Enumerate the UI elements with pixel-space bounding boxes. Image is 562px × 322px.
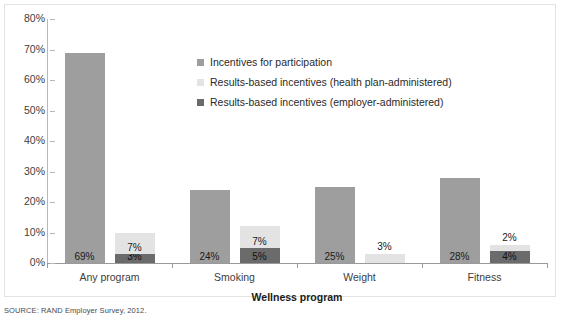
bar-value-label: 5% [240, 251, 280, 262]
bar-value-label: 2% [490, 232, 530, 243]
bar-value-label: 7% [115, 242, 155, 253]
bar-value-label: 4% [490, 251, 530, 262]
bar-results-based-health-plan: 3% [365, 254, 405, 263]
y-axis-tick-label: 50% [24, 104, 45, 116]
legend-item: Results-based incentives (health plan-ad… [197, 73, 547, 91]
legend-swatch-icon [197, 79, 204, 86]
y-axis-tick-label: 60% [24, 73, 45, 85]
x-axis-category-label: Fitness [422, 271, 547, 283]
chart-frame: 80%70%60%50%40%30%20%10%0% 69%3%7%24%5%7… [4, 4, 556, 297]
legend-swatch-icon [197, 59, 204, 66]
x-axis-tick-mark [47, 263, 48, 268]
x-axis-tick-mark [297, 263, 298, 268]
bar-value-label: 28% [440, 251, 480, 262]
y-axis-tick-label: 80% [24, 12, 45, 24]
bar-incentives-participation: 24% [190, 190, 230, 263]
source-note: SOURCE: RAND Employer Survey, 2012. [4, 306, 147, 315]
bar-value-label: 3% [365, 241, 405, 252]
bar-results-based-health-plan: 7% [115, 233, 155, 254]
legend-item-label: Results-based incentives (health plan-ad… [210, 76, 452, 88]
x-axis-tick-mark [172, 263, 173, 268]
bar-incentives-participation: 25% [315, 187, 355, 263]
legend-item: Incentives for participation [197, 53, 547, 71]
bar-results-based-employer: 5% [240, 248, 280, 263]
bar-value-label: 7% [240, 236, 280, 247]
legend-swatch-icon [197, 99, 204, 106]
y-axis-tick-mark [50, 141, 55, 142]
y-axis-tick-label: 0% [30, 256, 45, 268]
y-axis-tick-mark [50, 19, 55, 20]
bar-value-label: 25% [315, 251, 355, 262]
y-axis-tick-mark [50, 233, 55, 234]
legend-item-label: Results-based incentives (employer-admin… [210, 96, 443, 108]
bar-results-based-health-plan: 7% [240, 226, 280, 247]
y-axis-line [47, 19, 48, 263]
x-axis-tick-mark [422, 263, 423, 268]
bar-value-label: 69% [65, 251, 105, 262]
y-axis-tick-mark [50, 263, 55, 264]
x-axis-category-label: Weight [297, 271, 422, 283]
legend-item-label: Incentives for participation [210, 56, 332, 68]
chart-legend: Incentives for participationResults-base… [197, 53, 547, 113]
bar-results-based-health-plan: 2% [490, 245, 530, 251]
y-axis-tick-label: 40% [24, 134, 45, 146]
x-axis-category-label: Smoking [172, 271, 297, 283]
y-axis-tick-label: 70% [24, 43, 45, 55]
y-axis-tick-mark [50, 111, 55, 112]
y-axis-tick-mark [50, 172, 55, 173]
bar-value-label: 24% [190, 251, 230, 262]
bar-incentives-participation: 69% [65, 53, 105, 263]
x-axis-tick-mark [547, 263, 548, 268]
legend-item: Results-based incentives (employer-admin… [197, 93, 547, 111]
y-axis-tick-label: 10% [24, 226, 45, 238]
x-axis-category-label: Any program [47, 271, 172, 283]
y-axis-tick-mark [50, 80, 55, 81]
bar-incentives-participation: 28% [440, 178, 480, 263]
y-axis-tick-label: 20% [24, 195, 45, 207]
x-axis-title: Wellness program [47, 291, 547, 303]
y-axis-tick-mark [50, 202, 55, 203]
bar-results-based-employer: 3% [115, 254, 155, 263]
y-axis-tick-label: 30% [24, 165, 45, 177]
y-axis-tick-mark [50, 50, 55, 51]
bar-results-based-employer: 4% [490, 251, 530, 263]
